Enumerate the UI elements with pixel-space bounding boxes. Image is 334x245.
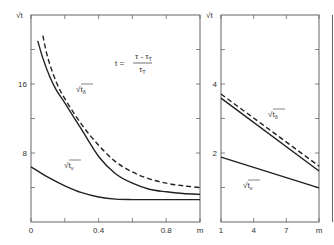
formula-annotation: t = τ - τT τT <box>115 52 152 75</box>
x-tick-label: 0 <box>29 226 34 235</box>
y-tick-label: 16 <box>18 80 27 89</box>
formula-lhs: t = <box>115 59 124 68</box>
x-tick-label: m <box>316 226 323 235</box>
formula-numerator-main: τ - τ <box>135 52 149 61</box>
x-tick-label: 0.4 <box>93 226 105 235</box>
y-tick-label: 2 <box>213 149 218 158</box>
formula-denominator-sub: T <box>142 69 146 75</box>
series-label: √tδ <box>268 110 278 120</box>
x-tick-label: 4 <box>251 226 256 235</box>
left-panel: 00.40.8m816√t√tδ√tv <box>16 11 204 235</box>
plot-frame <box>31 15 200 222</box>
x-tick-label: m <box>197 226 204 235</box>
series-line-tdelta-dashed <box>221 94 319 166</box>
formula-denominator: τT <box>139 65 146 75</box>
x-tick-label: 7 <box>284 226 289 235</box>
chart-figure: 00.40.8m816√t√tδ√tv 147m24√t√tδ√tv t = τ… <box>0 0 334 245</box>
series-line-tv <box>221 157 319 188</box>
series-label: √tv <box>243 181 253 191</box>
right-panel: 147m24√t√tδ√tv <box>206 11 323 235</box>
series-label: √tδ <box>76 85 86 95</box>
y-tick-label: 8 <box>23 149 28 158</box>
x-tick-label: 0.8 <box>161 226 173 235</box>
x-tick-label: 1 <box>219 226 224 235</box>
y-tick-label: 4 <box>213 80 218 89</box>
y-axis-label: √t <box>16 11 23 20</box>
formula-numerator: τ - τT <box>135 52 152 62</box>
formula-numerator-sub: T <box>148 56 152 62</box>
y-axis-label: √t <box>206 11 213 20</box>
series-line-tv <box>31 167 200 200</box>
series-label: √tv <box>64 161 74 171</box>
